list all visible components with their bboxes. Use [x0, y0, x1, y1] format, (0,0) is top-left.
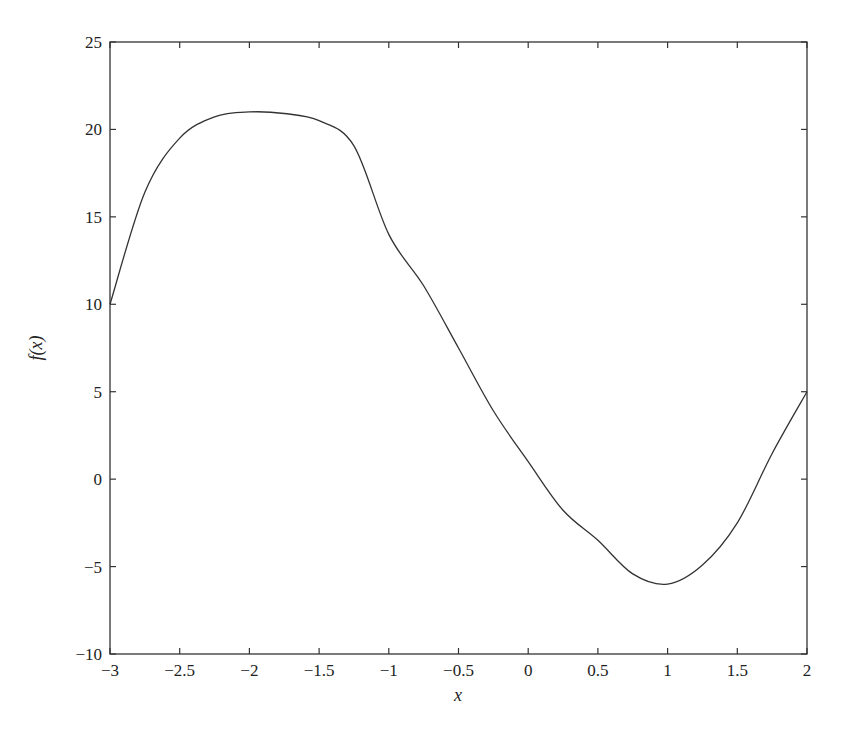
y-tick-label: 10: [85, 295, 102, 314]
x-tick-label: −0.5: [443, 661, 474, 680]
x-tick-label: 1.5: [727, 661, 748, 680]
y-tick-label: 0: [94, 470, 103, 489]
x-axis-label: x: [453, 685, 462, 705]
y-tick-label: 5: [94, 383, 103, 402]
x-tick-label: 2: [803, 661, 812, 680]
x-tick-label: −3: [101, 661, 119, 680]
x-tick-label: 1: [663, 661, 672, 680]
x-tick-label: 0.5: [587, 661, 608, 680]
y-tick-label: −5: [84, 558, 102, 577]
x-tick-labels: −3−2.5−2−1.5−1−0.500.511.52: [101, 661, 811, 680]
line-chart: −3−2.5−2−1.5−1−0.500.511.52 −10−50510152…: [0, 0, 850, 734]
x-tick-label: −1: [380, 661, 398, 680]
function-curve: [110, 112, 807, 585]
y-axis-label: f(x): [26, 336, 47, 361]
y-tick-label: 20: [85, 120, 102, 139]
x-tick-label: −2: [240, 661, 258, 680]
x-tick-label: −1.5: [304, 661, 335, 680]
x-tick-label: −2.5: [164, 661, 195, 680]
y-tick-labels: −10−50510152025: [75, 33, 102, 664]
y-tick-label: 25: [85, 33, 102, 52]
y-tick-label: 15: [85, 208, 102, 227]
x-tick-label: 0: [524, 661, 533, 680]
y-tick-label: −10: [75, 645, 102, 664]
